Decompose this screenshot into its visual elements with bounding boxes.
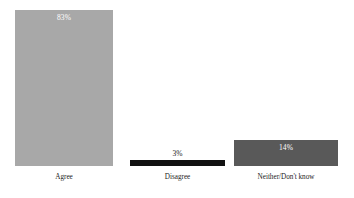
bar-group-agree: 83% Agree xyxy=(15,0,113,198)
bar-value-label-neither-dont-know: 14% xyxy=(234,143,338,152)
category-label-agree: Agree xyxy=(0,172,129,182)
bar-value-label-disagree: 3% xyxy=(130,149,225,158)
category-label-neither-dont-know: Neither/Don't know xyxy=(218,172,354,182)
bar-neither-dont-know[interactable]: 14% xyxy=(234,140,338,166)
bar-agree[interactable]: 83% xyxy=(15,10,113,166)
bar-value-label-agree: 83% xyxy=(15,13,113,22)
bar-group-neither: 14% Neither/Don't know xyxy=(234,0,338,198)
bar-chart: 83% Agree 3% Disagree 14% Neither/Don't … xyxy=(0,0,354,198)
bar-group-disagree: 3% Disagree xyxy=(130,0,225,198)
plot-area: 83% Agree 3% Disagree 14% Neither/Don't … xyxy=(0,0,354,198)
bar-disagree[interactable]: 3% xyxy=(130,160,225,166)
